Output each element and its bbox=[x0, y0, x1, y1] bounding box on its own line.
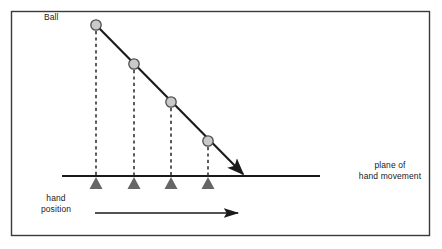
ball-marker-4 bbox=[203, 136, 213, 146]
ball-marker-2 bbox=[129, 59, 139, 69]
hand-position-label: hand position bbox=[28, 193, 84, 214]
ball-marker-3 bbox=[166, 97, 176, 107]
ball-marker-1 bbox=[91, 20, 101, 30]
figure-root: Ball hand position plane of hand movemen… bbox=[0, 0, 442, 249]
plane-of-hand-movement-label: plane of hand movement bbox=[350, 160, 430, 181]
ball-label: Ball bbox=[44, 12, 59, 23]
